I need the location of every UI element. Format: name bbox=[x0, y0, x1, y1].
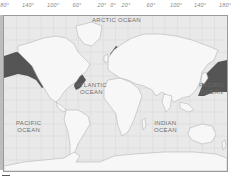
ocean-name: OCEAN bbox=[76, 89, 107, 96]
ocean-name: OCEAN bbox=[16, 127, 41, 134]
label-pacific-ocean-east: PACIFIC OCEAN bbox=[199, 82, 224, 96]
lon-label: 20° bbox=[122, 2, 131, 8]
ocean-name: OCEAN bbox=[154, 127, 177, 134]
label-arctic-ocean: ARCTIC OCEAN bbox=[92, 17, 141, 24]
lon-label: 140° bbox=[22, 2, 34, 8]
lon-label: 100° bbox=[170, 2, 182, 8]
label-indian-ocean: INDIAN OCEAN bbox=[154, 120, 177, 134]
lon-label: 60° bbox=[147, 2, 156, 8]
ocean-name: PACIFIC bbox=[16, 120, 41, 127]
ocean-name: INDIAN bbox=[154, 120, 177, 127]
lon-label: 180° bbox=[219, 2, 231, 8]
ocean-name: OCEAN bbox=[199, 89, 224, 96]
lon-label: 0° bbox=[110, 2, 116, 8]
label-pacific-ocean-west: PACIFIC OCEAN bbox=[16, 120, 41, 134]
ocean-name: PACIFIC bbox=[199, 82, 224, 89]
lon-label: 100° bbox=[47, 2, 59, 8]
lon-label: 140° bbox=[194, 2, 206, 8]
corner-mark bbox=[2, 175, 10, 176]
label-atlantic-ocean: ATLANTIC OCEAN bbox=[76, 82, 107, 96]
world-map: ARCTIC OCEAN ATLANTIC OCEAN PACIFIC OCEA… bbox=[3, 15, 228, 172]
lon-label: 180° bbox=[0, 2, 9, 8]
ocean-name: OCEAN bbox=[118, 17, 141, 23]
lon-label: 20° bbox=[98, 2, 107, 8]
map-graphic bbox=[4, 16, 227, 171]
ocean-name: ATLANTIC bbox=[76, 82, 107, 89]
longitude-labels: 180° 140° 100° 60° 20° 0° 20° 60° 100° 1… bbox=[0, 2, 243, 14]
lon-label: 60° bbox=[73, 2, 82, 8]
ocean-name: ARCTIC bbox=[92, 17, 116, 23]
